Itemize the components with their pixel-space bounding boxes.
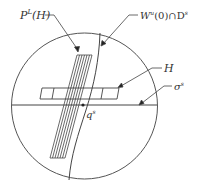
leader-lines <box>45 15 172 105</box>
fiber-bundle <box>50 55 92 158</box>
label-section: σs <box>174 80 184 92</box>
diagram-canvas: PL(H) Wu(0)∩Ds H σs qs <box>0 0 199 188</box>
point-q <box>81 103 84 106</box>
label-unstable-manifold: Wu(0)∩Ds <box>140 9 188 21</box>
label-box-h: H <box>163 62 174 75</box>
label-point-q: qs <box>86 108 96 120</box>
label-fiber-bundle: PL(H) <box>19 8 50 22</box>
